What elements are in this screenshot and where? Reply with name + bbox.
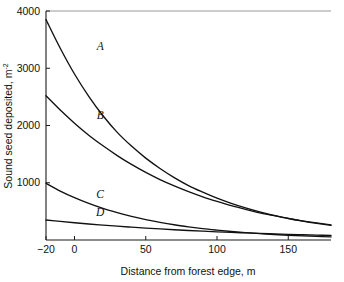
series-label-b: B [97,109,104,121]
x-tick-label: 0 [72,243,78,255]
y-tick-label: 1000 [17,176,41,188]
x-tick-label: −20 [37,243,55,255]
curve-b [46,96,331,225]
curve-a [46,20,331,226]
y-axis-title: Sound seed deposited, m-2 [2,63,14,188]
series-label-a: A [96,40,105,52]
line-chart: 1000200030004000 −20050100150 ABCD Dista… [0,0,344,282]
series-labels: ABCD [95,40,105,218]
series-label-c: C [96,188,104,200]
y-tick-label: 3000 [17,62,41,74]
x-axis-tick-labels: −20050100150 [37,243,297,255]
x-axis-title: Distance from forest edge, m [121,265,256,277]
x-tick-label: 100 [208,243,226,255]
chart-figure: 1000200030004000 −20050100150 ABCD Dista… [0,0,344,282]
series-label-d: D [95,206,105,218]
x-axis-ticks [46,236,288,240]
x-tick-label: 50 [140,243,152,255]
data-curves [46,20,331,237]
x-tick-label: 150 [279,243,297,255]
y-tick-label: 2000 [17,119,41,131]
y-tick-label: 4000 [17,5,41,17]
curve-d [46,220,331,236]
y-axis-tick-labels: 1000200030004000 [17,5,41,189]
